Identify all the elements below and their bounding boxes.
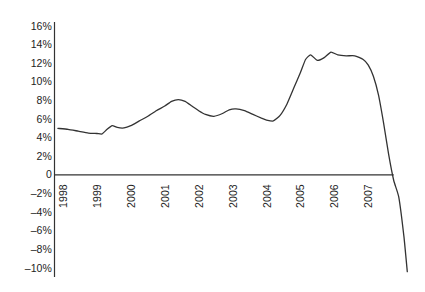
x-tick-label: 2007: [363, 184, 374, 208]
x-tick-label: 1999: [92, 184, 103, 208]
x-tick-label: 2002: [194, 184, 205, 208]
x-tick-label: 2006: [329, 184, 340, 208]
x-tick-label: 2001: [160, 184, 171, 208]
x-tick-label: 2003: [228, 184, 239, 208]
x-tick-label: 2004: [262, 184, 273, 208]
x-tick-label: 2005: [295, 184, 306, 208]
x-tick-label: 2000: [126, 184, 137, 208]
line-chart: 16%14%12%10%8%6%4%2%0–2%–4%–6%–8%–10% 19…: [0, 0, 425, 292]
x-tick-label: 1998: [58, 184, 69, 208]
x-axis-tick-labels: 1998199920002001200220032004200520062007: [0, 0, 425, 292]
